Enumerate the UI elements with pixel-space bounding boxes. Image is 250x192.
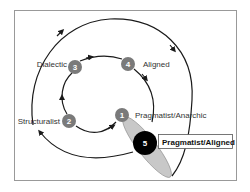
node-4-label: Aligned — [143, 60, 170, 69]
node-3-label: Dialectic — [37, 60, 67, 69]
node-3-number: 3 — [73, 63, 78, 72]
node-4[interactable]: 4 — [121, 57, 135, 71]
cycle-diagram: 3 Dialectic 4 Aligned 2 Structuralist 1 … — [0, 0, 250, 192]
node-2-label: Structuralist — [18, 117, 61, 126]
node-2[interactable]: 2 — [62, 114, 76, 128]
frame — [15, 11, 237, 181]
node-3[interactable]: 3 — [68, 60, 82, 74]
node-5-number: 5 — [143, 139, 148, 148]
node-1[interactable]: 1 — [115, 108, 129, 122]
node-5[interactable]: 5 — [133, 131, 157, 155]
node-5-label: Pragmatist/Aligned — [162, 138, 235, 147]
node-4-number: 4 — [126, 60, 131, 69]
node-1-label: Pragmatist/Anarchic — [135, 111, 207, 120]
node-2-number: 2 — [67, 117, 72, 126]
node-1-number: 1 — [120, 111, 125, 120]
